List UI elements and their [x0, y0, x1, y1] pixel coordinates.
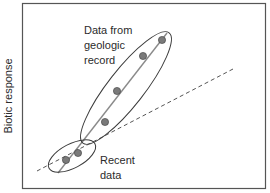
data-point: [62, 156, 69, 163]
geologic-label-line-1: Data from: [84, 24, 132, 36]
geologic-label-line-3: record: [84, 54, 115, 66]
recent-points: [62, 149, 81, 163]
recent-label-line-2: data: [100, 169, 122, 181]
data-point: [101, 118, 108, 125]
y-axis-label: Biotic response: [2, 58, 14, 133]
data-point: [113, 87, 120, 94]
recent-label-line-1: Recent: [100, 154, 135, 166]
data-point: [74, 149, 81, 156]
biotic-response-diagram: Data from geologic record Recent data Bi…: [0, 0, 270, 193]
plot-frame: [23, 4, 266, 189]
data-point: [139, 52, 146, 59]
geologic-label-line-2: geologic: [84, 39, 125, 51]
data-point: [158, 36, 165, 43]
geologic-label: Data from geologic record: [84, 24, 135, 66]
recent-label: Recent data: [100, 154, 138, 181]
